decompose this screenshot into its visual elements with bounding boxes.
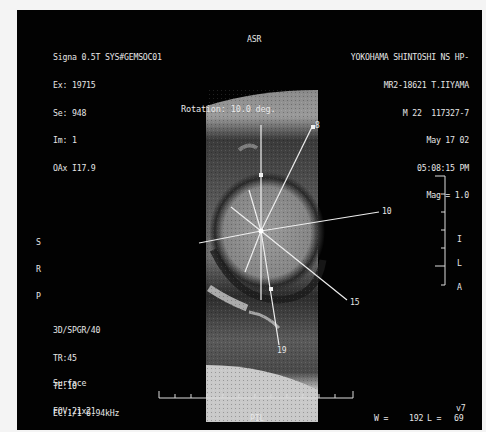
- mri-viewer-panel: 8 10 15 19 Signa 0.5T SYS#GEMSOC01 Ex: 1…: [17, 10, 482, 430]
- exam-info: Signa 0.5T SYS#GEMSOC01 Ex: 19715 Se: 94…: [53, 35, 162, 191]
- level-label: L =: [427, 414, 441, 423]
- version-label: v7: [456, 404, 465, 413]
- orientation-letter: R: [36, 265, 55, 274]
- orientation-top-label: ASR: [247, 35, 261, 44]
- orientation-letter: I: [457, 235, 476, 243]
- reference-line-label[interactable]: 19: [277, 347, 287, 355]
- slice-location: OAx I17.9: [53, 164, 162, 173]
- orientation-letter: L: [457, 259, 476, 267]
- magnification: Mag = 1.0: [351, 191, 469, 200]
- orientation-left: S R P: [36, 220, 55, 319]
- orientation-letter: S: [36, 238, 55, 247]
- rotation-label: Rotation: 10.0 deg.: [181, 105, 276, 114]
- coil-type: Surface: [53, 379, 114, 388]
- hospital-name: YOKOHAMA SHINTOSHI NS HP-: [351, 53, 469, 62]
- image-number: Im: 1: [53, 136, 162, 145]
- series-number: Se: 948: [53, 109, 162, 118]
- patient-info: YOKOHAMA SHINTOSHI NS HP- MR2-18621 T.II…: [351, 35, 469, 219]
- reference-line-label[interactable]: 8: [315, 122, 320, 130]
- exam-number: Ex: 19715: [53, 81, 162, 90]
- orientation-bottom-label: PIL: [250, 414, 264, 423]
- orientation-letter: A: [457, 283, 476, 291]
- exam-date: May 17 02: [351, 136, 469, 145]
- system-label: Signa 0.5T SYS#GEMSOC01: [53, 53, 162, 62]
- orientation-right: I L A: [457, 219, 476, 307]
- pulse-sequence: 3D/SPGR/40: [53, 326, 119, 335]
- exam-time: 05:08:15 PM: [351, 164, 469, 173]
- window-label: W =: [374, 414, 388, 423]
- acquisition-info: Surface FOV:21x21 2.0thk/0.0sp 36/09:40 …: [53, 361, 114, 430]
- orientation-letter: P: [36, 292, 55, 301]
- reference-line-label[interactable]: 15: [350, 299, 360, 307]
- patient-id: MR2-18621 T.IIYAMA: [351, 81, 469, 90]
- level-value[interactable]: 69: [454, 414, 463, 423]
- patient-age-id: M 22 117327-7: [351, 109, 469, 118]
- window-value[interactable]: 192: [409, 414, 423, 423]
- field-of-view: FOV:21x21: [53, 407, 114, 416]
